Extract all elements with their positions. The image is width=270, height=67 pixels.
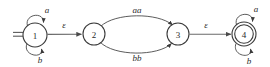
transition-label-arc-lower: bb	[133, 53, 143, 63]
transition-label-loop-1-bottom: b	[38, 55, 43, 65]
transition-4-4-a: a	[236, 4, 259, 25]
state-node-4[interactable]: 4	[232, 22, 256, 46]
state-node-2[interactable]: 2	[83, 23, 105, 45]
transition-label-eps-3-4: ε	[204, 20, 208, 30]
transition-label-loop-4-top: a	[254, 4, 259, 14]
automaton-diagram: a b ε aa bb ε a	[0, 0, 270, 67]
state-node-3[interactable]: 3	[167, 23, 189, 45]
automaton-figure: a b ε aa bb ε a	[0, 0, 270, 67]
transition-1-2-epsilon: ε	[48, 20, 82, 34]
transition-label-loop-4-bottom: b	[247, 56, 252, 66]
transition-2-3-bb: bb	[100, 42, 172, 63]
state-label-4: 4	[242, 30, 247, 40]
state-label-1: 1	[33, 31, 38, 41]
state-label-3: 3	[176, 30, 181, 40]
transition-label-loop-1-top: a	[45, 5, 50, 15]
transition-2-3-aa: aa	[101, 5, 173, 27]
transition-label-eps-1-2: ε	[62, 20, 66, 30]
start-marker	[13, 32, 24, 36]
state-node-1[interactable]: 1	[23, 23, 47, 47]
transition-3-4-epsilon: ε	[190, 20, 232, 34]
transition-label-arc-upper: aa	[133, 5, 143, 15]
transition-4-4-b: b	[235, 44, 251, 67]
state-label-2: 2	[92, 30, 97, 40]
transition-1-1-a: a	[27, 5, 50, 26]
